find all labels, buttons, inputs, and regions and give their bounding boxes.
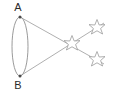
diagram-canvas: A B <box>0 0 114 91</box>
upper-right-star-icon <box>89 20 105 35</box>
point-a-marker <box>19 16 22 19</box>
lower-right-star-icon <box>89 52 105 67</box>
point-b-label: B <box>14 79 21 91</box>
center-star-icon <box>64 36 80 51</box>
point-a-label: A <box>14 1 22 13</box>
ray-b-to-upper-right <box>20 23 104 76</box>
diagram-svg: A B <box>0 0 114 91</box>
aperture-ellipse <box>12 17 28 76</box>
point-b-marker <box>19 75 22 78</box>
